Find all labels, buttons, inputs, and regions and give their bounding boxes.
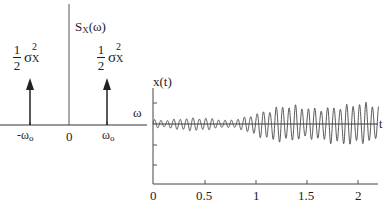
tick-zero: 0 [66, 130, 73, 143]
impulse-arrow-neg [26, 78, 34, 125]
right-x-axis-label: t [379, 118, 382, 130]
right-y-axis-label: x(t) [153, 75, 172, 88]
impulse-weight-neg-sigma: σ2X [24, 49, 32, 66]
xtick-1.5: 1.5 [298, 189, 314, 202]
xtick-0.5: 0.5 [196, 189, 212, 202]
xtick-2: 2 [355, 189, 362, 202]
impulse-weight-pos-sigma: σ2X [108, 49, 116, 66]
xtick-0: 0 [150, 189, 157, 202]
left-x-axis-label: ω [133, 106, 142, 119]
tick-omega0: ωo [102, 129, 114, 143]
tick-neg-omega0: -ωo [17, 129, 33, 143]
impulse-weight-pos: 1 2 [97, 43, 105, 72]
impulse-weight-neg: 1 2 [13, 43, 21, 72]
xtick-1: 1 [253, 189, 260, 202]
signal-curve [153, 102, 379, 144]
figure-canvas [0, 0, 387, 210]
left-y-axis-label: SX(ω) [75, 20, 106, 35]
impulse-arrow-pos [103, 78, 111, 125]
